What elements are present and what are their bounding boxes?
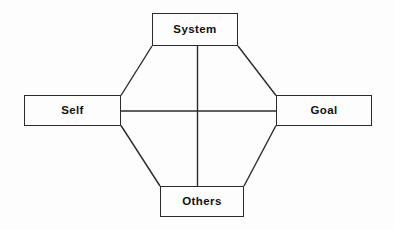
node-goal[interactable]: Goal: [276, 95, 372, 126]
node-self[interactable]: Self: [24, 95, 121, 126]
node-system[interactable]: System: [152, 13, 238, 46]
node-self-label: Self: [61, 105, 84, 117]
node-goal-label: Goal: [310, 105, 337, 117]
edge-self-system: [121, 46, 152, 96]
node-others[interactable]: Others: [160, 186, 244, 217]
edge-self-others: [121, 126, 160, 187]
node-system-label: System: [173, 24, 216, 36]
node-others-label: Others: [182, 196, 221, 208]
edge-others-goal: [244, 126, 276, 187]
diagram-canvas: System Self Goal Others: [0, 0, 394, 230]
edge-system-goal: [238, 46, 276, 96]
